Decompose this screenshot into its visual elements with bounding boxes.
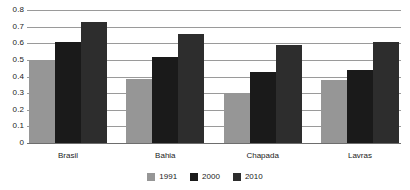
legend-label: 2010 [245, 173, 263, 181]
plot-area [27, 10, 401, 143]
bar [224, 93, 250, 143]
grouped-bar-chart: 00.10.20.30.40.50.60.70.8 BrasilBahiaCha… [0, 0, 410, 190]
bar [126, 79, 152, 143]
bar [55, 42, 81, 143]
y-tick-label: 0.2 [0, 106, 24, 114]
x-category-label: Chapada [224, 150, 302, 166]
chart-legend: 199120002010 [0, 170, 410, 184]
x-axis: BrasilBahiaChapadaLavras [27, 150, 401, 166]
bar-group [29, 10, 107, 143]
bar-group [224, 10, 302, 143]
x-category-label: Brasil [29, 150, 107, 166]
y-tick-label: 0.5 [0, 56, 24, 64]
y-tick-label: 0 [0, 139, 24, 147]
y-tick-label: 0.8 [0, 6, 24, 14]
bar-group [321, 10, 399, 143]
bar [152, 57, 178, 143]
legend-swatch-icon [233, 173, 241, 181]
bar [373, 42, 399, 143]
bar [178, 34, 204, 143]
x-category-label: Lavras [321, 150, 399, 166]
y-axis: 00.10.20.30.40.50.60.70.8 [0, 0, 24, 150]
y-tick-label: 0.6 [0, 39, 24, 47]
y-tick-label: 0.4 [0, 73, 24, 81]
bar [250, 72, 276, 143]
bar [81, 22, 107, 143]
bar [347, 70, 373, 143]
plot-wrapper: 00.10.20.30.40.50.60.70.8 BrasilBahiaCha… [0, 0, 410, 150]
legend-swatch-icon [190, 173, 198, 181]
bars-layer [27, 10, 401, 143]
bar [276, 45, 302, 143]
legend-item[interactable]: 2010 [233, 173, 263, 181]
legend-label: 2000 [202, 173, 220, 181]
y-tick-label: 0.3 [0, 89, 24, 97]
x-category-label: Bahia [126, 150, 204, 166]
bar [321, 80, 347, 143]
legend-label: 1991 [159, 173, 177, 181]
y-tick-label: 0.7 [0, 23, 24, 31]
y-tick-label: 0.1 [0, 122, 24, 130]
bar [29, 60, 55, 143]
bar-group [126, 10, 204, 143]
legend-item[interactable]: 2000 [190, 173, 220, 181]
legend-swatch-icon [147, 173, 155, 181]
legend-item[interactable]: 1991 [147, 173, 177, 181]
axis-baseline [27, 143, 401, 144]
